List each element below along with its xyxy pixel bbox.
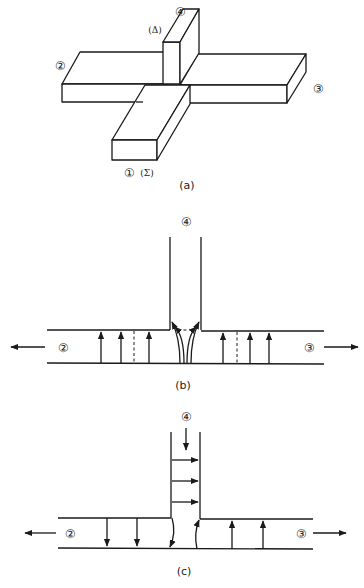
port-3-label: ③ (313, 82, 324, 96)
bottom-wall (58, 548, 313, 549)
port-2-label: ② (65, 527, 76, 541)
bottom-wall (47, 363, 324, 364)
port-2-label: ② (55, 59, 66, 73)
port-4-label: ④ (181, 410, 192, 424)
port-2-label: ② (58, 341, 69, 355)
sigma-label: (Σ) (140, 168, 153, 178)
panel-b-field-lines: ④ ② ③ (b) (11, 215, 358, 392)
junction-curves (172, 322, 199, 363)
caption-c: (c) (177, 565, 192, 578)
port-4-label: ④ (181, 215, 192, 229)
field-arrows-left (101, 331, 149, 363)
delta-label: (Δ) (148, 25, 162, 35)
magic-tee-figure: ④ (Δ) ② ③ ① (Σ) (a) (0, 0, 364, 588)
port-3-label: ③ (296, 527, 307, 541)
port-3-label: ③ (304, 341, 315, 355)
field-arrows-arm4 (172, 460, 198, 502)
caption-a: (a) (179, 179, 194, 192)
caption-b: (b) (175, 379, 191, 392)
field-arrows-left (107, 518, 174, 547)
field-arrows-right (223, 332, 269, 364)
panel-c-field-lines: ④ ② ③ (c) (25, 410, 346, 578)
port-1-label: ① (124, 166, 135, 180)
panel-a-isometric-junction: ④ (Δ) ② ③ ① (Σ) (a) (55, 5, 324, 192)
field-arrows-right (196, 520, 263, 549)
port-4-label: ④ (175, 5, 186, 19)
arm-port-3 (180, 54, 306, 103)
